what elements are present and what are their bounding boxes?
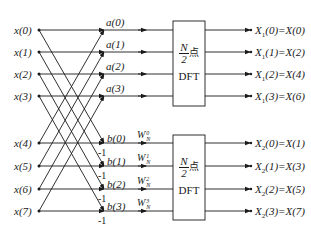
output-label-X2-3: X2(3)=X(7) (255, 205, 305, 220)
negation-label-1: -1 (98, 170, 106, 181)
node-label-b2: b(2) (107, 178, 125, 190)
twiddle-factor-2: W2N (137, 175, 150, 188)
input-label-x6: x(6) (14, 183, 32, 195)
output-label-X2-2: X2(2)=X(5) (255, 183, 305, 198)
input-label-x3: x(3) (14, 90, 32, 102)
dft-bottom-label: DFT (173, 184, 205, 196)
input-label-x7: x(7) (14, 205, 32, 217)
dft-top-label: DFT (173, 70, 205, 82)
node-label-b0: b(0) (107, 132, 125, 144)
node-label-a2: a(2) (106, 60, 124, 72)
input-label-x1: x(1) (14, 46, 32, 58)
node-label-a3: a(3) (106, 82, 124, 94)
dft-bottom-size: N2点 (173, 156, 205, 179)
output-label-X2-1: X2(1)=X(3) (255, 160, 305, 175)
output-label-X2-0: X2(0)=X(1) (255, 137, 305, 152)
twiddle-factor-3: W3N (137, 197, 150, 210)
output-label-X1-2: X1(2)=X(4) (255, 68, 305, 83)
node-label-a0: a(0) (106, 16, 124, 28)
output-label-X1-1: X1(1)=X(2) (255, 46, 305, 61)
input-label-x2: x(2) (14, 68, 32, 80)
negation-label-3: -1 (98, 215, 106, 226)
output-label-X1-3: X1(3)=X(6) (255, 90, 305, 105)
negation-label-2: -1 (98, 193, 106, 204)
negation-label-0: -1 (98, 147, 106, 158)
output-label-X1-0: X1(0)=X(0) (255, 24, 305, 39)
input-dots (38, 29, 41, 213)
output-dots (250, 29, 252, 212)
twiddle-factor-1: W1N (137, 152, 150, 165)
input-label-x0: x(0) (14, 24, 32, 36)
input-label-x5: x(5) (14, 160, 32, 172)
node-label-b3: b(3) (107, 200, 125, 212)
node-label-b1: b(1) (107, 155, 125, 167)
output-edges (205, 30, 250, 211)
input-label-x4: x(4) (14, 137, 32, 149)
dft-top-size: N2点 (173, 42, 205, 65)
node-label-a1: a(1) (106, 38, 124, 50)
twiddle-factor-0: W0N (137, 129, 150, 142)
